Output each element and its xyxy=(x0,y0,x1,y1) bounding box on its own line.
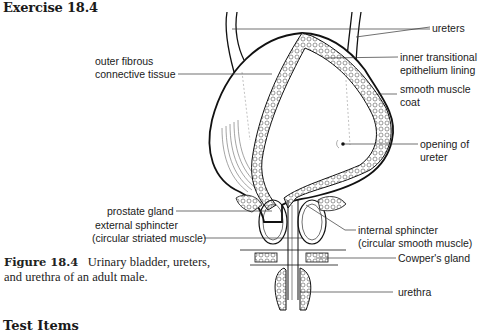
label-ureters: ureters xyxy=(432,22,465,35)
label-external-sphincter-1: external sphincter xyxy=(95,219,178,232)
figure-number: Figure 18.4 xyxy=(4,255,78,269)
label-inner-transitional-1: inner transitional xyxy=(400,51,477,64)
test-items-heading: Test Items xyxy=(3,318,79,333)
figure-caption: Figure 18.4 Urinary bladder, ureters, an… xyxy=(4,255,210,285)
label-cowpers-gland: Cowper's gland xyxy=(398,252,470,265)
label-smooth-muscle-2: coat xyxy=(400,96,420,109)
label-inner-transitional-2: epithelium lining xyxy=(400,64,475,77)
label-outer-fibrous-1: outer fibrous xyxy=(95,55,153,68)
label-opening-1: opening of xyxy=(420,138,469,151)
label-internal-sphincter-1: internal sphincter xyxy=(358,224,438,237)
label-smooth-muscle-1: smooth muscle xyxy=(400,83,471,96)
caption-line-1: Urinary bladder, ureters, xyxy=(88,255,210,269)
label-urethra: urethra xyxy=(398,286,431,299)
label-outer-fibrous-2: connective tissue xyxy=(95,68,176,81)
caption-line-2: and urethra of an adult male. xyxy=(4,270,148,284)
label-internal-sphincter-2: (circular smooth muscle) xyxy=(358,237,472,250)
label-opening-2: ureter xyxy=(420,151,447,164)
label-external-sphincter-2: (circular striated muscle) xyxy=(92,232,206,245)
cowpers-region xyxy=(240,250,346,265)
label-prostate: prostate gland xyxy=(107,205,174,218)
urethra-bulb xyxy=(275,268,311,310)
